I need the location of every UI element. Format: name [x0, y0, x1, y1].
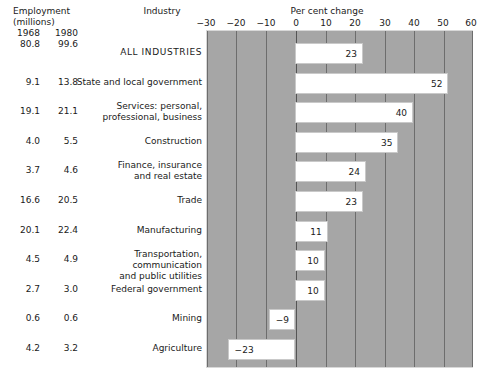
total-employment-1968: 80.8 [6, 39, 40, 50]
bar-value-label: 10 [307, 251, 318, 272]
bar-value-label: 52 [431, 74, 442, 95]
employment-1968-value: 20.1 [6, 220, 40, 241]
bar: 23 [295, 191, 363, 212]
xtick-label-20: 20 [342, 18, 368, 28]
chart-axis-title: Per cent change [262, 6, 392, 16]
industry-label: Finance, insurance and real estate [62, 160, 202, 182]
industry-label: Transportation, communication and public… [62, 249, 202, 282]
employment-1968-value: 0.6 [6, 308, 40, 329]
year-header-1968: 1968 [6, 28, 40, 39]
xtick-label-neg20: −20 [223, 18, 249, 28]
gridline-60 [472, 31, 473, 367]
bar-value-label: 10 [307, 281, 318, 302]
employment-1968-value: 9.1 [6, 72, 40, 93]
industry-label: Construction [62, 136, 202, 147]
bar: −9 [269, 309, 296, 330]
industry-label: Agriculture [62, 343, 202, 354]
bar: 52 [295, 73, 448, 94]
bar-value-label: 23 [346, 192, 357, 213]
bar: 10 [295, 250, 324, 271]
employment-1968-value: 4.0 [6, 131, 40, 152]
employment-1968-value: 3.7 [6, 160, 40, 181]
industry-label: ALL INDUSTRIES [62, 47, 202, 58]
gridline-neg10 [266, 31, 267, 367]
bar-value-label: 35 [381, 133, 392, 154]
bar: 40 [295, 102, 413, 123]
employment-1968-value: 2.7 [6, 279, 40, 300]
employment-1968-value: 19.1 [6, 101, 40, 122]
bar: 23 [295, 43, 363, 64]
bar: 35 [295, 132, 398, 153]
xtick-label-30: 30 [372, 18, 398, 28]
employment-1968-value: 16.6 [6, 190, 40, 211]
bar: 10 [295, 280, 324, 301]
gridline-neg20 [236, 31, 237, 367]
industry-label: State and local government [62, 77, 202, 88]
plot-area: 235240352423111010−9−23 [206, 30, 473, 368]
xtick-label-60: 60 [458, 18, 480, 28]
bar: 24 [295, 161, 366, 182]
employment-1968-value: 4.5 [6, 249, 40, 270]
bar: −23 [228, 339, 296, 360]
xtick-label-0: 0 [283, 18, 309, 28]
industry-label: Trade [62, 195, 202, 206]
xtick-label-40: 40 [401, 18, 427, 28]
industry-label: Mining [62, 313, 202, 324]
industry-label: Services: personal, professional, busine… [62, 101, 202, 123]
year-header-1980: 1980 [44, 28, 78, 39]
bar-value-label: −9 [276, 310, 289, 331]
xtick-label-50: 50 [430, 18, 456, 28]
employment-1968-value: 4.2 [6, 338, 40, 359]
total-employment-1980: 99.6 [44, 39, 78, 50]
gridline-neg30 [207, 31, 208, 367]
industry-column-title: Industry [120, 6, 204, 16]
xtick-label-10: 10 [313, 18, 339, 28]
bar-value-label: −23 [235, 340, 254, 361]
bar-value-label: 24 [349, 162, 360, 183]
bar-value-label: 11 [310, 222, 321, 243]
bar-value-label: 40 [396, 103, 407, 124]
percent-change-bar-chart: Employment (millions) Industry Per cent … [0, 0, 480, 376]
bar-value-label: 23 [346, 44, 357, 65]
bar: 11 [295, 221, 327, 242]
xtick-label-neg10: −10 [253, 18, 279, 28]
employment-column-title: Employment (millions) [13, 6, 70, 28]
industry-label: Federal government [62, 284, 202, 295]
industry-label: Manufacturing [62, 225, 202, 236]
xtick-label-neg30: −30 [193, 18, 219, 28]
